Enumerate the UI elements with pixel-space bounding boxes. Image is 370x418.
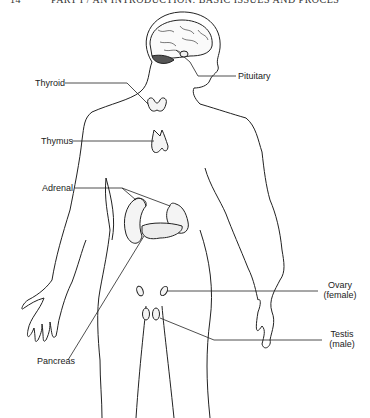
label-ovary-name: Ovary xyxy=(320,280,360,290)
label-pituitary: Pituitary xyxy=(238,71,271,81)
label-pancreas: Pancreas xyxy=(37,356,75,366)
adrenal-kidney-left xyxy=(124,198,146,243)
adrenal-leader xyxy=(75,188,170,206)
label-testis: Testis (male) xyxy=(324,329,360,349)
label-testis-note: (male) xyxy=(324,339,360,349)
pituitary-leader xyxy=(190,62,236,76)
label-ovary: Ovary (female) xyxy=(320,280,360,300)
label-thymus: Thymus xyxy=(41,136,73,146)
leader-lines xyxy=(65,62,322,360)
label-ovary-note: (female) xyxy=(320,290,360,300)
label-testis-name: Testis xyxy=(324,329,360,339)
thyroid-leader xyxy=(65,83,148,104)
thyroid-gland xyxy=(148,98,167,111)
thymus-gland xyxy=(152,130,168,153)
label-adrenal: Adrenal xyxy=(42,183,73,193)
label-thyroid: Thyroid xyxy=(35,78,65,88)
testis-leader xyxy=(160,318,322,340)
testes xyxy=(143,308,160,320)
ovaries xyxy=(135,285,169,297)
brain xyxy=(150,20,212,63)
pancreas xyxy=(142,223,182,239)
